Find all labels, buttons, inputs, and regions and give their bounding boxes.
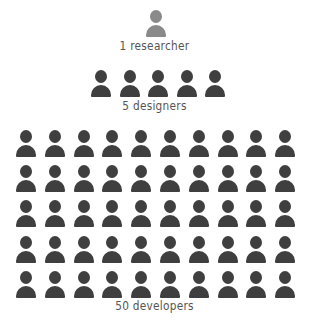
person-body [16,145,36,157]
developer-person-icon [131,200,151,228]
person-body [160,286,180,298]
person-head [106,236,118,249]
person-head [279,236,291,249]
developer-person-icon [131,271,151,299]
developer-person-icon [16,165,36,193]
person-body [218,215,238,227]
developer-person-icon [189,236,209,264]
person-body [102,251,122,263]
person-head [106,200,118,213]
person-head [95,70,107,83]
person-head [20,165,32,178]
person-body [246,215,266,227]
person-body [218,286,238,298]
person-body [218,145,238,157]
person-body [275,145,295,157]
developer-person-icon [16,271,36,299]
developer-person-icon [160,236,180,264]
person-head [222,236,234,249]
developer-person-icon [189,130,209,158]
designer-label: 5 designers [19,99,291,113]
person-body [177,85,197,97]
developer-person-icon [16,130,36,158]
person-body [131,180,151,192]
person-body [246,286,266,298]
person-head [222,271,234,284]
person-head [49,130,61,143]
developer-person-icon [74,165,94,193]
developer-person-icon [102,130,122,158]
developer-person-icon [246,130,266,158]
person-head [193,130,205,143]
person-body [74,251,94,263]
person-body [16,286,36,298]
person-head [164,165,176,178]
person-head [49,165,61,178]
developer-person-icon [275,130,295,158]
developer-person-icon [102,271,122,299]
person-head [250,165,262,178]
person-body [275,286,295,298]
person-head [78,200,90,213]
person-body [91,85,111,97]
person-body [275,215,295,227]
developer-person-icon [45,236,65,264]
designer-person-icon [120,70,140,98]
person-head [135,271,147,284]
developer-person-icon [160,200,180,228]
person-body [160,251,180,263]
person-body [102,145,122,157]
person-head [135,200,147,213]
developer-person-icon [74,130,94,158]
person-head [279,271,291,284]
person-body [160,180,180,192]
developer-person-icon [74,200,94,228]
developer-person-icon [246,236,266,264]
person-head [222,130,234,143]
person-head [250,130,262,143]
developer-person-icon [275,271,295,299]
person-head [49,200,61,213]
designer-person-icon [177,70,197,98]
person-head [124,70,136,83]
person-body [160,215,180,227]
person-head [164,271,176,284]
researcher-label: 1 researcher [19,39,291,53]
researcher-person-icon [146,10,166,38]
person-body [45,215,65,227]
person-head [250,271,262,284]
developer-person-icon [74,271,94,299]
person-body [74,286,94,298]
developer-person-icon [45,200,65,228]
developer-person-icon [218,271,238,299]
developer-person-icon [218,200,238,228]
person-body [189,251,209,263]
person-head [135,130,147,143]
person-head [222,165,234,178]
developer-person-icon [246,165,266,193]
person-head [279,165,291,178]
person-head [78,236,90,249]
developer-person-icon [45,271,65,299]
developer-person-icon [189,271,209,299]
person-body [189,286,209,298]
designer-person-icon [205,70,225,98]
developer-person-icon [131,236,151,264]
person-head [106,271,118,284]
person-head [250,200,262,213]
person-head [193,165,205,178]
person-head [152,70,164,83]
person-body [45,251,65,263]
person-head [279,130,291,143]
developer-person-icon [160,271,180,299]
person-head [49,271,61,284]
person-head [181,70,193,83]
person-head [150,10,162,23]
developer-person-icon [275,236,295,264]
person-head [78,130,90,143]
person-head [78,271,90,284]
person-head [222,200,234,213]
person-body [45,145,65,157]
person-body [189,145,209,157]
developer-person-icon [131,165,151,193]
